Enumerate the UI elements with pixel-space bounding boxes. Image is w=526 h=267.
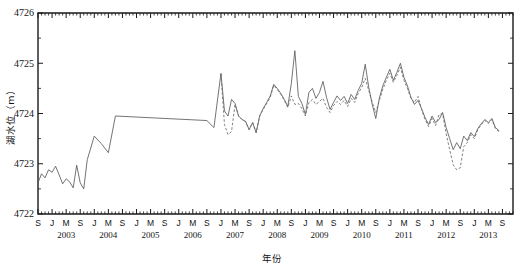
x-tick-label: S (35, 218, 41, 228)
x-tick-label: M (316, 218, 323, 228)
x-tick-label: M (231, 218, 238, 228)
x-tick-label: M (63, 218, 70, 228)
y-axis-title: 湖水位（m） (5, 85, 16, 144)
x-year-label: 2007 (226, 230, 245, 240)
series-line-simulated (221, 67, 499, 170)
x-tick-label: J (388, 218, 392, 228)
x-tick-label: M (274, 218, 281, 228)
y-tick-label: 4722 (14, 208, 34, 219)
water-level-line-chart: 47224723472447254726 SJMSJMSJMSJMSJMSJMS… (0, 0, 526, 267)
x-tick-label: S (331, 218, 337, 228)
x-tick-label: S (120, 218, 126, 228)
x-tick-label: S (288, 218, 294, 228)
x-tick-label: S (204, 218, 210, 228)
x-tick-label: S (162, 218, 168, 228)
x-tick-label: M (443, 218, 450, 228)
x-tick-label: J (219, 218, 223, 228)
x-tick-label: J (177, 218, 181, 228)
x-year-label: 2010 (353, 230, 372, 240)
x-tick-label: S (457, 218, 463, 228)
y-tick-label: 4726 (14, 7, 34, 18)
x-tick-label: J (261, 218, 265, 228)
x-tick-label: J (50, 218, 54, 228)
x-tick-label: J (303, 218, 307, 228)
x-year-label: 2012 (437, 230, 455, 240)
x-tick-label: J (472, 218, 476, 228)
x-tick-label: M (189, 218, 196, 228)
data-series-layer (38, 51, 499, 189)
y-tick-label: 4723 (14, 158, 34, 169)
x-tick-label: J (430, 218, 434, 228)
x-tick-label: M (358, 218, 365, 228)
x-year-label: 2011 (395, 230, 413, 240)
x-year-label: 2009 (310, 230, 329, 240)
y-tick-label: 4724 (14, 108, 34, 119)
x-axis-tick-labels: SJMSJMSJMSJMSJMSJMSJMSJMSJMSJMSJMS (35, 218, 505, 228)
x-axis-year-labels: 2003200420052006200720082009201020112012… (57, 230, 498, 240)
x-tick-label: S (415, 218, 421, 228)
y-tick-label: 4725 (14, 58, 34, 69)
x-tick-label: S (77, 218, 83, 228)
x-year-label: 2006 (184, 230, 203, 240)
y-axis-tick-labels: 47224723472447254726 (14, 7, 34, 219)
x-year-label: 2013 (479, 230, 498, 240)
x-tick-label: S (500, 218, 506, 228)
x-tick-label: M (485, 218, 492, 228)
x-tick-label: S (246, 218, 252, 228)
series-line-observed (38, 51, 499, 189)
x-tick-label: J (346, 218, 350, 228)
x-year-label: 2004 (99, 230, 118, 240)
x-tick-label: J (134, 218, 138, 228)
x-year-label: 2008 (268, 230, 287, 240)
x-year-label: 2003 (57, 230, 76, 240)
x-tick-label: M (105, 218, 112, 228)
x-tick-label: M (147, 218, 154, 228)
x-year-label: 2005 (142, 230, 161, 240)
x-axis-title: 年份 (262, 253, 282, 264)
x-tick-label: M (400, 218, 407, 228)
x-tick-label: S (373, 218, 379, 228)
chart-figure: 47224723472447254726 SJMSJMSJMSJMSJMSJMS… (0, 0, 526, 267)
x-tick-label: J (92, 218, 96, 228)
